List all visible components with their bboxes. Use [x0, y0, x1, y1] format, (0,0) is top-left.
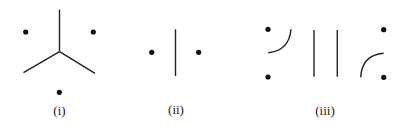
panel-label-iii: (iii)	[315, 103, 335, 118]
panel-label-ii: (ii)	[168, 102, 184, 117]
vertex-dot-left	[149, 50, 154, 55]
vertex-dot-bottom-right	[381, 75, 386, 80]
arc-bottom-right	[361, 53, 384, 77]
panel-iii: (iii)	[265, 27, 386, 118]
vertex-dot-bottom	[57, 90, 62, 95]
tripod-lower-right-edge	[60, 52, 96, 74]
vertex-dot-top-right	[381, 27, 386, 32]
diagram-figure: (i) (ii) (iii)	[0, 0, 409, 126]
panel-label-i: (i)	[53, 103, 65, 118]
panel-i: (i)	[23, 10, 96, 119]
vertex-dot-right	[196, 50, 201, 55]
vertex-dot-left	[23, 29, 28, 34]
vertex-dot-top-left	[265, 27, 270, 32]
vertex-dot-right	[91, 29, 96, 34]
vertex-dot-bottom-left	[265, 74, 270, 79]
tripod-lower-left-edge	[24, 52, 60, 73]
panel-ii: (ii)	[149, 29, 201, 117]
arc-top-left	[268, 29, 291, 52]
